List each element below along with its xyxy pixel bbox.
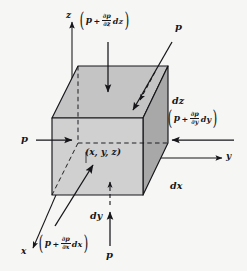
expr-operator: + xyxy=(94,17,101,25)
expr-differential: dz xyxy=(113,17,123,25)
expr-differential: dx xyxy=(72,240,82,248)
dx-label: dx xyxy=(170,181,182,191)
fraction-numerator: ∂p xyxy=(190,111,200,118)
partial-derivative-fraction: ∂p ∂y xyxy=(190,111,200,126)
pressure-cube-figure: z y x (x, y, z) dz dx dy p p p ( p + ∂p … xyxy=(0,0,247,271)
expr-base: p xyxy=(45,239,51,248)
dy-label: dy xyxy=(90,211,102,221)
fraction-denominator: ∂y xyxy=(190,118,199,126)
left-pressure-label: p xyxy=(21,134,28,144)
paren-open: ( xyxy=(79,13,84,28)
expr-operator: + xyxy=(182,115,189,123)
partial-derivative-fraction: ∂p ∂x xyxy=(61,236,71,251)
fraction-denominator: ∂x xyxy=(61,243,70,251)
y-axis-label: y xyxy=(226,152,231,161)
paren-close: ) xyxy=(84,236,89,251)
bottom-pressure-label: p xyxy=(106,250,113,260)
expr-differential: dy xyxy=(201,115,211,123)
top-pressure-expression: ( p + ∂p ∂z dz ) xyxy=(78,13,131,30)
right-pressure-expression: ( p + ∂p ∂y dy ) xyxy=(166,111,219,128)
paren-close: ) xyxy=(124,13,129,28)
z-axis-label: z xyxy=(66,11,71,20)
diagram-vector-layer xyxy=(0,0,247,271)
expr-base: p xyxy=(174,114,180,123)
front-pressure-expression: ( p + ∂p ∂x dx ) xyxy=(37,236,90,253)
expr-base: p xyxy=(86,16,92,25)
fraction-denominator: ∂z xyxy=(102,20,111,28)
paren-close: ) xyxy=(213,111,218,126)
center-point-label: (x, y, z) xyxy=(85,148,121,157)
paren-open: ( xyxy=(38,236,43,251)
partial-derivative-fraction: ∂p ∂z xyxy=(102,13,112,28)
expr-operator: + xyxy=(53,240,60,248)
top-rear-pressure-label: p xyxy=(175,22,182,32)
dz-label: dz xyxy=(172,96,184,106)
fraction-numerator: ∂p xyxy=(102,13,112,20)
fraction-numerator: ∂p xyxy=(61,236,71,243)
x-axis-label: x xyxy=(21,247,26,256)
paren-open: ( xyxy=(167,111,172,126)
